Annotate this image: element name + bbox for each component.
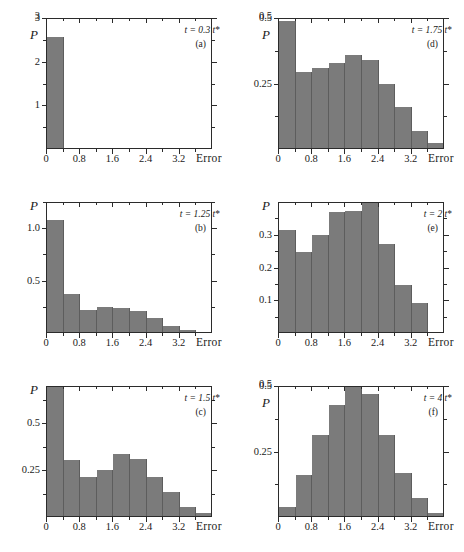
y-axis-title-f: P [262, 395, 270, 411]
x-axis-ticks-top-e [278, 202, 444, 207]
histogram-bar [279, 507, 296, 516]
x-axis-ticks-top-f [278, 386, 444, 391]
histogram-bar [379, 84, 396, 148]
histogram-bar [64, 294, 81, 332]
histogram-bar [113, 308, 130, 332]
bar-series-e [279, 203, 443, 332]
histogram-bar [180, 330, 197, 332]
x-tick-label: 3.2 [397, 337, 425, 348]
y-tick-label: 0.5 [0, 275, 40, 286]
x-axis-ticks-top-a [46, 18, 212, 23]
y-tick-label: 0.1 [228, 294, 272, 305]
x-tick-label: 3.2 [165, 521, 193, 532]
y-tick-label: 0.25 [0, 464, 40, 475]
histogram-bar [345, 211, 362, 332]
y-tick-label: 0.25 [228, 78, 272, 89]
histogram-bar [345, 55, 362, 148]
x-tick-label: 3.2 [397, 521, 425, 532]
panel-letter-label: (f) [424, 406, 438, 420]
histogram-bar [312, 68, 329, 148]
time-annotation: t = 1.75 t* [412, 24, 452, 38]
histogram-bar [395, 107, 412, 148]
histogram-panel-a: 00.81.62.43.2Error123P3t = 0.3 t*(a) [0, 0, 232, 184]
histogram-panel-f: 00.81.62.43.2Error0.250.5P0.5t = 4 t*(f) [232, 368, 464, 552]
histogram-bar [362, 202, 379, 332]
time-annotation: t = 1.5 t* [185, 392, 220, 406]
y-axis-ticks-left-f [273, 386, 278, 517]
y-axis-ticks-left-b [41, 202, 46, 333]
figure-panel-grid: 00.81.62.43.2Error123P3t = 0.3 t*(a)00.8… [0, 0, 464, 552]
histogram-bar [47, 37, 64, 148]
histogram-bar [412, 498, 429, 516]
y-axis-max-label: 3 [0, 10, 40, 21]
histogram-bar [329, 212, 346, 332]
histogram-bar [379, 244, 396, 332]
histogram-panel-e: 00.81.62.43.2Error0.10.20.3Pt = 2 t*(e) [232, 184, 464, 368]
panel-letter-label: (a) [185, 38, 206, 52]
histogram-bar [428, 143, 444, 148]
plot-area-e [278, 202, 444, 333]
panel-annotation-d: t = 1.75 t*(d) [412, 24, 452, 52]
x-tick-label: 0.8 [65, 153, 93, 164]
x-tick-label: 0.8 [65, 337, 93, 348]
x-tick-label: 0.8 [297, 521, 325, 532]
histogram-bar [395, 285, 412, 332]
y-tick-label: 0.2 [228, 262, 272, 273]
panel-annotation-f: t = 4 t*(f) [424, 392, 452, 420]
y-axis-ticks-left-c [41, 386, 46, 517]
x-tick-label: 1.6 [330, 337, 358, 348]
x-tick-label: 2.4 [132, 521, 160, 532]
histogram-bar [147, 318, 164, 332]
x-axis-ticks-top-c [46, 386, 212, 391]
histogram-bar [80, 477, 97, 516]
histogram-bar [163, 492, 180, 516]
histogram-bar [296, 475, 313, 516]
histogram-bar [362, 60, 379, 148]
histogram-bar [412, 131, 429, 148]
histogram-bar [412, 303, 429, 332]
panel-annotation-b: t = 1.25 t*(b) [180, 208, 220, 236]
y-axis-max-label: 0.5 [228, 10, 272, 21]
y-tick-label: 2 [0, 56, 40, 67]
panel-letter-label: (d) [412, 38, 438, 52]
x-tick-label: 0.8 [297, 337, 325, 348]
time-annotation: t = 1.25 t* [180, 208, 220, 222]
x-axis-title-c: Error [196, 520, 222, 532]
x-tick-label: 0 [264, 153, 292, 164]
x-axis-title-a: Error [196, 152, 222, 164]
x-tick-label: 2.4 [132, 337, 160, 348]
x-tick-label: 3.2 [165, 337, 193, 348]
x-tick-label: 3.2 [165, 153, 193, 164]
y-tick-label: 0.3 [228, 229, 272, 240]
x-tick-label: 0 [264, 337, 292, 348]
histogram-panel-d: 00.81.62.43.2Error0.250.5P0.5t = 1.75 t*… [232, 0, 464, 184]
histogram-bar [130, 311, 147, 332]
x-tick-label: 2.4 [132, 153, 160, 164]
x-tick-label: 2.4 [364, 153, 392, 164]
histogram-bar [80, 310, 97, 332]
histogram-bar [312, 435, 329, 516]
bar-series-f [279, 387, 443, 516]
histogram-bar [97, 470, 114, 516]
time-annotation: t = 4 t* [424, 392, 452, 406]
y-axis-title-e: P [262, 198, 270, 214]
histogram-bar [362, 394, 379, 516]
x-tick-label: 1.6 [98, 153, 126, 164]
histogram-panel-c: 00.81.62.43.2Error0.250.5Pt = 1.5 t*(c) [0, 368, 232, 552]
histogram-bar [345, 386, 362, 516]
histogram-bar [163, 326, 180, 332]
histogram-bar [329, 405, 346, 516]
x-tick-label: 0 [32, 337, 60, 348]
x-tick-label: 0 [32, 153, 60, 164]
y-tick-label: 0.5 [0, 417, 40, 428]
x-tick-label: 0 [32, 521, 60, 532]
y-axis-ticks-left-d [273, 18, 278, 149]
time-annotation: t = 2 t* [424, 208, 452, 222]
panel-letter-label: (b) [180, 222, 206, 236]
y-axis-ticks-left-e [273, 202, 278, 333]
x-tick-label: 2.4 [364, 337, 392, 348]
x-tick-label: 2.4 [364, 521, 392, 532]
x-tick-label: 1.6 [330, 521, 358, 532]
histogram-bar [279, 21, 296, 148]
histogram-bar [113, 454, 130, 516]
